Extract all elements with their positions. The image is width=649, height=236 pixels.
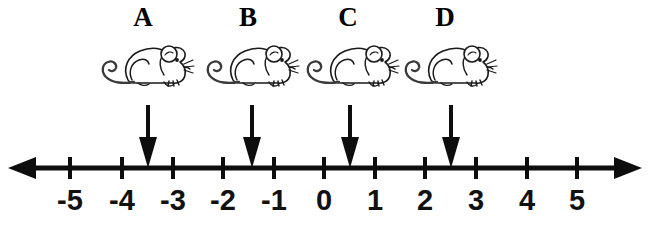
tick-label-neg5: -5 (44, 186, 96, 215)
pointer-arrow-a (139, 105, 157, 168)
mouse-icon-b (208, 46, 299, 86)
tick-label-neg3: -3 (147, 186, 199, 215)
pointer-arrow-c (341, 105, 359, 168)
marker-label-b: B (228, 4, 268, 31)
mouse-icon-a (103, 46, 194, 86)
tick-label-neg1: -1 (248, 186, 300, 215)
tick-label-neg4: -4 (96, 186, 148, 215)
tick-label-5: 5 (551, 186, 603, 215)
pointer-arrow-d (442, 105, 460, 168)
marker-label-c: C (328, 4, 368, 31)
tick-label-1: 1 (349, 186, 401, 215)
tick-label-3: 3 (450, 186, 502, 215)
tick-label-neg2: -2 (197, 186, 249, 215)
right-arrow-icon (614, 157, 642, 179)
mouse-row (103, 46, 497, 86)
pointer-arrow-b (243, 105, 261, 168)
pointer-arrow-group (139, 105, 460, 168)
tick-label-0: 0 (298, 186, 350, 215)
marker-label-a: A (123, 4, 163, 31)
left-arrow-icon (8, 157, 36, 179)
tick-label-2: 2 (399, 186, 451, 215)
marker-label-d: D (425, 4, 465, 31)
number-line-figure: A B C D -5 -4 -3 -2 -1 0 1 2 3 4 5 (0, 0, 649, 236)
tick-label-4: 4 (501, 186, 553, 215)
mouse-icon-d (406, 46, 497, 86)
mouse-icon-c (308, 46, 399, 86)
number-line-axis (8, 157, 642, 179)
